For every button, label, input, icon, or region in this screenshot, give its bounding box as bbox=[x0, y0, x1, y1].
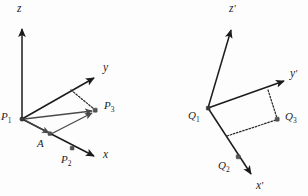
node-q1 bbox=[206, 106, 210, 110]
point-label-a: A bbox=[37, 138, 44, 149]
axis-label-x: x bbox=[103, 149, 108, 161]
prime-mark-y: ' bbox=[295, 68, 297, 79]
axis-label-y: y bbox=[103, 62, 108, 74]
node-q2 bbox=[236, 155, 240, 159]
vector-p1-to-a bbox=[23, 119, 49, 133]
dotted-xprime-to-q3 bbox=[227, 120, 276, 136]
axis-label-x-prime: x' bbox=[256, 180, 263, 192]
node-p3 bbox=[93, 108, 97, 112]
left-frame-group bbox=[20, 29, 97, 156]
figure-root: z y x P1 A P2 P3 z' y' x' Q1 Q2 Q3 bbox=[0, 0, 308, 196]
prime-mark-x: ' bbox=[261, 180, 263, 191]
node-a bbox=[48, 132, 52, 136]
point-label-p2: P2 bbox=[61, 154, 71, 168]
axis-label-z-prime: z' bbox=[229, 3, 236, 15]
point-label-q2: Q2 bbox=[218, 160, 230, 174]
point-label-q1: Q1 bbox=[188, 110, 200, 124]
axis-z-prime bbox=[208, 30, 231, 108]
point-label-p2-sub: 2 bbox=[68, 159, 72, 168]
node-p2 bbox=[70, 146, 74, 150]
point-label-p3: P3 bbox=[104, 100, 114, 114]
diagram-canvas bbox=[0, 0, 308, 196]
dotted-yprime-to-q3 bbox=[268, 90, 277, 118]
point-label-p3-sub: 3 bbox=[111, 105, 115, 114]
point-label-q3: Q3 bbox=[285, 111, 297, 125]
point-label-q2-sub: 2 bbox=[226, 165, 230, 174]
axis-label-y-prime: y' bbox=[290, 68, 297, 80]
point-label-p1: P1 bbox=[1, 111, 11, 125]
axis-label-z: z bbox=[17, 3, 21, 15]
axis-y bbox=[22, 78, 94, 119]
vector-a-to-p3 bbox=[51, 113, 92, 134]
right-frame-group bbox=[206, 30, 284, 174]
point-label-q3-sub: 3 bbox=[293, 116, 297, 125]
point-label-q1-sub: 1 bbox=[196, 115, 200, 124]
node-q3 bbox=[275, 117, 279, 121]
dotted-projection-y-to-p3 bbox=[71, 90, 94, 109]
point-label-p1-sub: 1 bbox=[8, 116, 12, 125]
prime-mark-z: ' bbox=[233, 3, 235, 14]
node-p1 bbox=[20, 117, 24, 121]
